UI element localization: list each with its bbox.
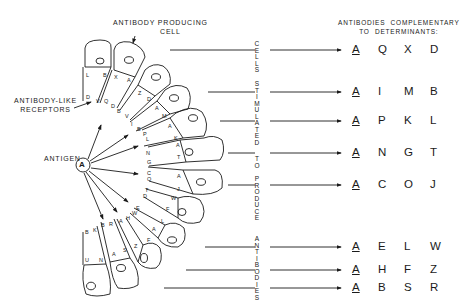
svg-text:G: G [147, 159, 151, 165]
determinant: T [430, 146, 456, 158]
result-arrows [270, 50, 341, 288]
determinant: B [430, 85, 456, 97]
svg-text:D: D [147, 96, 151, 102]
svg-text:A: A [176, 142, 180, 148]
svg-text:F: F [147, 237, 151, 243]
cell-6 [148, 136, 224, 166]
cell-label-line2: CELL [113, 27, 208, 36]
svg-text:A: A [119, 218, 123, 224]
svg-text:A: A [177, 173, 181, 179]
determinant: X [404, 43, 430, 55]
svg-text:A: A [155, 105, 159, 111]
svg-text:N: N [146, 150, 150, 156]
determinant: W [430, 240, 456, 252]
svg-text:A: A [168, 123, 172, 129]
vertical-text-column: CELLS STIMULATED TO PRODUCE ANTIBODIES [253, 38, 263, 302]
receptors-label: ANTIBODY-LIKE RECEPTORS [14, 96, 77, 114]
determinant-row: ANGT [352, 146, 456, 158]
svg-text:Q: Q [104, 98, 109, 104]
determinant: J [430, 178, 456, 190]
antigen-determinant: A [352, 281, 378, 293]
determinant-row: APKL [352, 114, 456, 126]
antigen-label: ANTIGEN [44, 154, 81, 163]
svg-text:B: B [117, 108, 121, 114]
antigen-determinant: A [352, 263, 378, 275]
svg-text:F: F [166, 206, 170, 212]
antigen-symbol: A [79, 160, 85, 169]
svg-text:T: T [177, 154, 181, 160]
svg-text:S: S [123, 247, 127, 253]
determinant: F [404, 263, 430, 275]
svg-text:U: U [85, 257, 89, 263]
determinant: K [404, 114, 430, 126]
header-line1: ANTIBODIES COMPLEMENTARY [338, 18, 460, 27]
determinant: D [430, 43, 456, 55]
svg-text:M: M [162, 113, 167, 119]
determinant: C [378, 178, 404, 190]
vertical-word-cells: CELLS [253, 38, 260, 74]
svg-text:K: K [93, 227, 97, 233]
svg-text:L: L [161, 218, 164, 224]
cell-9 [130, 208, 185, 247]
determinant: B [378, 281, 404, 293]
determinant: Z [430, 263, 456, 275]
determinant-row: AHFZ [352, 263, 456, 275]
determinant: G [404, 146, 430, 158]
antigen-determinant: A [352, 85, 378, 97]
determinant: O [404, 178, 430, 190]
svg-text:W: W [171, 195, 177, 201]
determinant-row: AQXD [352, 43, 456, 55]
determinant-row: ABSR [352, 281, 456, 293]
determinant: P [378, 114, 404, 126]
svg-text:J: J [177, 186, 180, 192]
antigen-determinant: A [352, 146, 378, 158]
determinant: I [378, 85, 404, 97]
svg-text:L: L [86, 72, 89, 78]
antigen-determinant: A [352, 43, 378, 55]
vertical-word-stimulated: STIMULATED [253, 78, 260, 146]
svg-text:D: D [86, 94, 90, 100]
svg-text:D: D [143, 193, 147, 199]
determinant-row: AELW [352, 240, 456, 252]
svg-text:W: W [132, 210, 138, 216]
determinant-row: AIMB [352, 85, 456, 97]
svg-text:V: V [125, 113, 129, 119]
determinant: M [404, 85, 430, 97]
receptors-label-line1: ANTIBODY-LIKE [14, 96, 77, 105]
antigen-determinant: A [352, 114, 378, 126]
svg-text:A: A [112, 251, 116, 257]
antigen-determinant: A [352, 178, 378, 190]
vertical-word-antibodies: ANTIBODIES [253, 232, 260, 302]
determinant: N [378, 146, 404, 158]
svg-text:X: X [114, 74, 118, 80]
svg-text:H: H [126, 215, 130, 221]
svg-text:B: B [101, 222, 105, 228]
antigen-arrows [84, 125, 138, 219]
cell-label-line1: ANTIBODY PRODUCING [113, 18, 208, 27]
determinant: S [404, 281, 430, 293]
antigen-determinant: A [352, 240, 378, 252]
vertical-word-to: TO [253, 154, 260, 168]
svg-text:L: L [146, 136, 149, 142]
header-line2: TO DETERMINANTS: [338, 27, 460, 36]
cell-label: ANTIBODY PRODUCING CELL [113, 18, 208, 36]
determinant: H [378, 263, 404, 275]
svg-text:Z: Z [134, 243, 138, 249]
svg-text:N: N [99, 257, 103, 263]
svg-text:K: K [174, 135, 178, 141]
svg-text:R: R [109, 221, 113, 227]
determinant: E [378, 240, 404, 252]
svg-text:I: I [131, 121, 133, 127]
svg-text:B: B [137, 126, 141, 132]
svg-text:A: A [127, 77, 131, 83]
determinant-row: ACOJ [352, 178, 456, 190]
vertical-word-produce: PRODUCE [253, 174, 260, 222]
svg-text:Z: Z [138, 90, 142, 96]
receptors-label-line2: RECEPTORS [14, 105, 77, 114]
svg-text:O: O [147, 176, 152, 182]
svg-text:D: D [111, 103, 115, 109]
svg-text:A: A [152, 226, 156, 232]
determinant: L [404, 240, 430, 252]
svg-text:V: V [96, 98, 100, 104]
determinant: L [430, 114, 456, 126]
